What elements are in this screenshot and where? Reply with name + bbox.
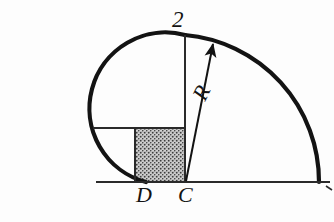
stippled-square-region xyxy=(135,128,185,182)
baseline-end-tick-icon xyxy=(326,186,332,190)
point-label-c: C xyxy=(178,184,193,206)
point-label-d: D xyxy=(136,184,152,206)
large-arc xyxy=(185,35,319,182)
figure-canvas: 2 R D C xyxy=(0,0,334,222)
top-dimension-label: 2 xyxy=(172,8,184,31)
geometry-drawing xyxy=(0,0,334,222)
radius-arrow-icon xyxy=(186,44,213,181)
